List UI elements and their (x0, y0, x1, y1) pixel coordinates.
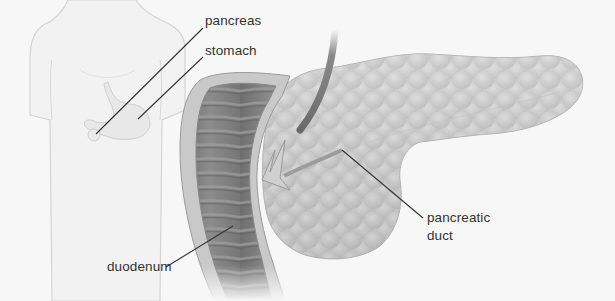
label-duodenum: duodenum (107, 259, 172, 275)
label-stomach: stomach (205, 43, 257, 59)
label-pancreatic-duct-line2: duct (427, 228, 453, 244)
label-pancreatic-duct-line1: pancreatic (427, 210, 490, 226)
body-silhouette (30, 0, 185, 301)
pancreas-illustration (262, 54, 582, 259)
anatomy-illustration (0, 0, 615, 301)
label-pancreas: pancreas (205, 13, 261, 29)
